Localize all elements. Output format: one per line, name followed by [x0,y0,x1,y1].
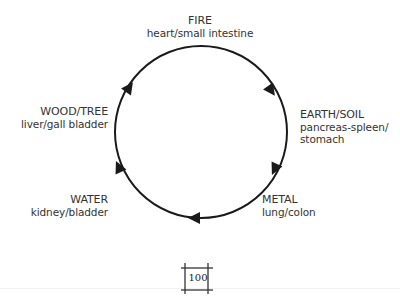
node-fire: FIRE heart/small intestine [0,15,400,39]
element-name: WOOD/TREE [0,106,108,118]
organ-pair-line1: pancreas-spleen/ [300,121,388,133]
organ-pair: kidney/bladder [0,206,108,218]
element-name: METAL [262,194,316,206]
arrow-metal-to-water [188,212,200,224]
page-number-box: 100 [180,262,216,294]
organ-pair: heart/small intestine [0,27,400,39]
organ-pair: liver/gall bladder [0,118,108,130]
node-wood-tree: WOOD/TREE liver/gall bladder [0,106,108,130]
cycle-diagram [0,0,400,307]
organ-pair: lung/colon [262,206,316,218]
node-water: WATER kidney/bladder [0,194,108,218]
element-name: WATER [0,194,108,206]
node-earth-soil: EARTH/SOIL pancreas-spleen/ stomach [300,109,388,145]
organ-pair-line2: stomach [300,133,388,145]
page-number: 100 [180,272,216,283]
node-metal: METAL lung/colon [262,194,316,218]
element-name: EARTH/SOIL [300,109,388,121]
element-name: FIRE [0,15,400,27]
